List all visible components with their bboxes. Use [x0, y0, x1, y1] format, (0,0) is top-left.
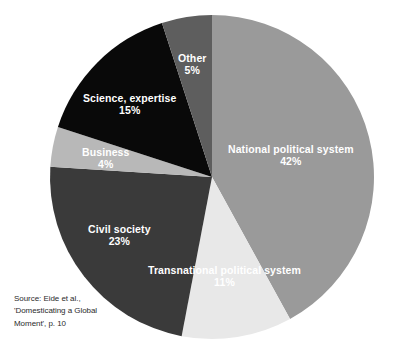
source-note-line-1: Source: Eide et al.,: [14, 293, 144, 305]
source-note-line-3: Moment', p. 10: [14, 318, 144, 330]
figure-caption: [14, 350, 374, 358]
pie-chart-figure: National political system 42% Transnatio…: [0, 0, 395, 358]
pie-slice-group: [50, 15, 374, 339]
source-note-line-2: 'Domesticating a Global: [14, 305, 144, 317]
source-note: Source: Eide et al., 'Domesticating a Gl…: [14, 293, 144, 330]
